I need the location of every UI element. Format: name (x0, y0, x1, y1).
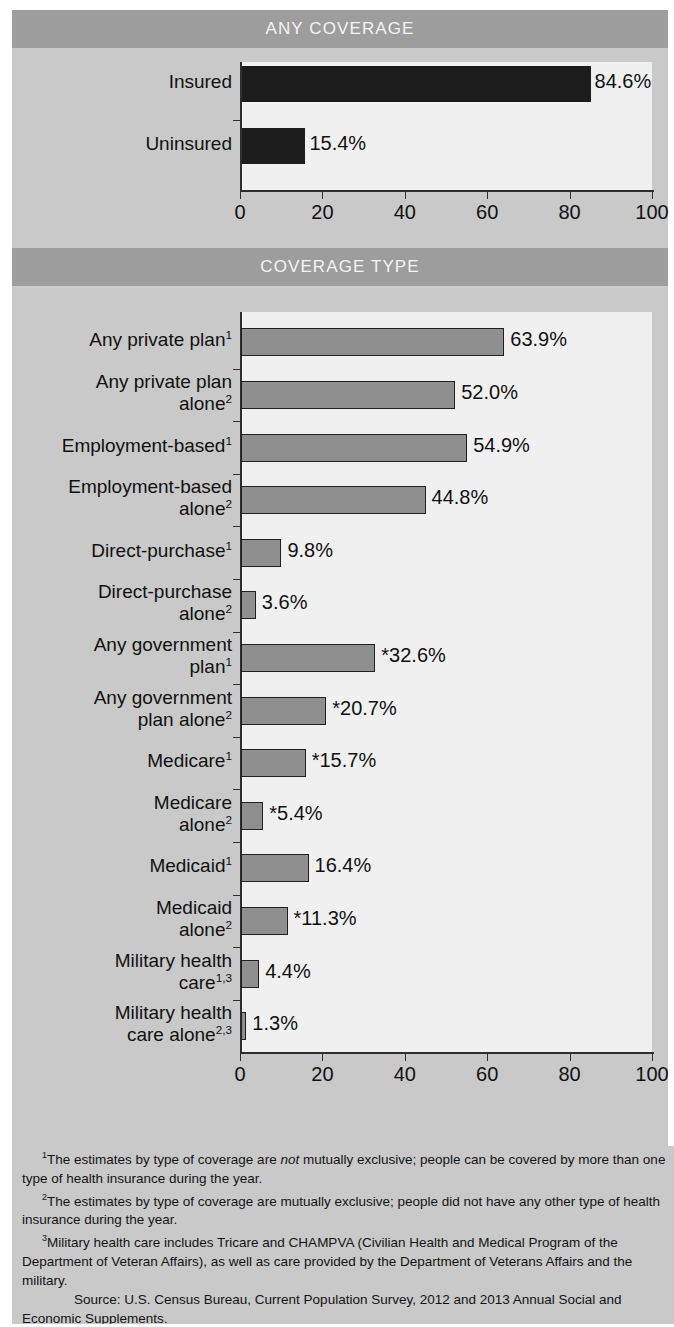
x-axis-tick-label: 40 (394, 201, 416, 224)
bar-value-label: 15.4% (309, 132, 366, 155)
x-axis-tick-label: 100 (635, 201, 668, 224)
y-axis-tick (233, 737, 240, 738)
x-axis-tick-label: 80 (558, 201, 580, 224)
bar (241, 960, 259, 988)
y-axis-tick (233, 842, 240, 843)
y-axis-tick (233, 526, 240, 527)
any-coverage-chart: Insured84.6%Uninsured15.4% 020406080100 (12, 48, 668, 248)
x-axis-tick-label: 20 (311, 201, 333, 224)
footnotes-block: 1The estimates by type of coverage are n… (12, 1146, 674, 1324)
any-coverage-title: ANY COVERAGE (266, 19, 415, 39)
bar (241, 749, 306, 777)
y-axis-tick (233, 789, 240, 790)
bar (241, 539, 281, 567)
source-note: Source: U.S. Census Bureau, Current Popu… (12, 1290, 674, 1325)
category-label: Any governmentplan alone2 (32, 687, 232, 731)
category-label: Medicaid1 (32, 855, 232, 877)
bar (241, 434, 467, 462)
bar (242, 128, 305, 164)
category-label: Any private planalone2 (32, 371, 232, 415)
bar-value-label: 52.0% (461, 381, 518, 404)
bar (241, 802, 263, 830)
section-header-coverage-type: COVERAGE TYPE (12, 248, 668, 286)
section-header-any-coverage: ANY COVERAGE (12, 10, 668, 48)
x-axis-tick-label: 60 (476, 1063, 498, 1086)
bar (241, 328, 504, 356)
x-axis-tick (240, 1054, 241, 1061)
x-axis-tick (487, 1054, 488, 1061)
category-label: Medicaidalone2 (32, 897, 232, 941)
figure-sheet: ANY COVERAGE Insured84.6%Uninsured15.4% … (12, 10, 668, 1320)
category-label: Uninsured (52, 133, 232, 155)
bar-value-label: 4.4% (265, 960, 311, 983)
y-axis-tick (233, 474, 240, 475)
x-axis-tick (487, 192, 488, 199)
category-label: Any governmentplan1 (32, 634, 232, 678)
x-axis-tick (405, 1054, 406, 1061)
footnote-2: 2The estimates by type of coverage are m… (12, 1188, 674, 1230)
footnote-1: 1The estimates by type of coverage are n… (12, 1146, 674, 1188)
category-label: Military healthcare alone2,3 (32, 1002, 232, 1046)
category-label: Medicarealone2 (32, 792, 232, 836)
y-axis-tick (233, 684, 240, 685)
x-axis-tick (322, 192, 323, 199)
bar (241, 907, 288, 935)
category-label: Direct-purchase1 (32, 540, 232, 562)
footnote-1-emphasis: not (280, 1152, 299, 1167)
footnote-1-text-a: The estimates by type of coverage are (47, 1152, 280, 1167)
x-axis-tick-label: 0 (234, 1063, 245, 1086)
category-label: Any private plan1 (32, 329, 232, 351)
bar-value-label: 3.6% (262, 591, 308, 614)
y-axis-tick (233, 369, 240, 370)
y-axis-tick (233, 579, 240, 580)
bar-value-label: 84.6% (595, 70, 652, 93)
bar-value-label: *32.6% (381, 644, 446, 667)
bar (241, 591, 256, 619)
y-axis-tick (233, 947, 240, 948)
x-axis-tick-label: 60 (476, 201, 498, 224)
bar-value-label: 44.8% (432, 486, 489, 509)
bar-value-label: *5.4% (269, 802, 322, 825)
x-axis-tick (652, 1054, 653, 1061)
x-axis-tick (570, 1054, 571, 1061)
bar-value-label: *11.3% (294, 907, 357, 930)
bar (241, 1012, 246, 1040)
bar (241, 381, 455, 409)
category-label: Employment-based1 (32, 435, 232, 457)
category-label: Direct-purchasealone2 (32, 581, 232, 625)
figure-page: ANY COVERAGE Insured84.6%Uninsured15.4% … (0, 0, 674, 1327)
coverage-type-title: COVERAGE TYPE (260, 257, 419, 277)
bar (241, 486, 426, 514)
bar (241, 854, 309, 882)
bar (242, 66, 591, 102)
bar-value-label: *20.7% (332, 697, 397, 720)
x-axis-tick (405, 192, 406, 199)
plot-area-bottom (240, 312, 652, 1052)
y-axis-tick (233, 1000, 240, 1001)
footnote-3: 3Military health care includes Tricare a… (12, 1229, 674, 1290)
y-axis-tick (233, 895, 240, 896)
category-label: Medicare1 (32, 750, 232, 772)
bar-value-label: 16.4% (315, 854, 372, 877)
x-axis-line (240, 1052, 654, 1054)
y-axis-tick (233, 421, 240, 422)
x-axis-tick (652, 192, 653, 199)
category-label: Insured (52, 71, 232, 93)
bar-value-label: 9.8% (287, 539, 333, 562)
x-axis-tick-label: 20 (311, 1063, 333, 1086)
y-axis-line (240, 312, 242, 1052)
category-label: Military healthcare1,3 (32, 950, 232, 994)
bar (241, 644, 375, 672)
bar-value-label: *15.7% (312, 749, 377, 772)
footnote-3-text: Military health care includes Tricare an… (22, 1235, 632, 1288)
x-axis-tick-label: 0 (234, 201, 245, 224)
x-axis-tick-label: 80 (558, 1063, 580, 1086)
bar-value-label: 1.3% (252, 1012, 298, 1035)
y-axis-tick (233, 120, 240, 121)
x-axis-tick-label: 100 (635, 1063, 668, 1086)
coverage-type-chart: Any private plan163.9%Any private planal… (12, 286, 668, 1146)
y-axis-tick (233, 632, 240, 633)
bar-value-label: 54.9% (473, 434, 530, 457)
x-axis-tick (570, 192, 571, 199)
x-axis-tick (322, 1054, 323, 1061)
